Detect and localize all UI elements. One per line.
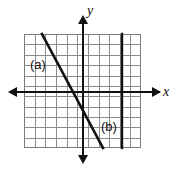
line-a-curve xyxy=(42,34,103,148)
line-b-label: (b) xyxy=(101,120,117,133)
graph-figure: y x (a) (b) xyxy=(0,0,177,169)
line-a-label: (a) xyxy=(30,58,46,71)
plot-lines xyxy=(0,0,177,169)
